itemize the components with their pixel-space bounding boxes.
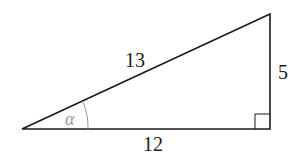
angle-alpha-label: α <box>65 109 75 129</box>
right-angle-marker <box>255 114 270 129</box>
angle-arc <box>83 101 88 129</box>
hypotenuse-label: 13 <box>125 49 145 71</box>
height-label: 5 <box>278 61 288 83</box>
base-label: 12 <box>143 133 163 155</box>
triangle <box>22 14 270 129</box>
triangle-diagram: α 13 5 12 <box>0 0 305 156</box>
